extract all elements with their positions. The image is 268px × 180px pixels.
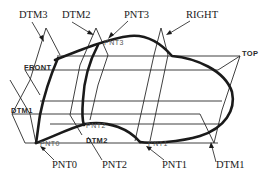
pnt3-tag: PNT3 — [104, 39, 124, 46]
callout-pnt1: PNT1 — [162, 159, 187, 170]
profile-curves — [36, 36, 233, 143]
callout-dtm3: DTM3 — [19, 9, 48, 20]
dtm2-plane — [70, 28, 108, 135]
callout-pnt2: PNT2 — [102, 159, 127, 170]
dtm1-plane — [12, 101, 222, 143]
pnt2-tag: PNT2 — [86, 122, 106, 129]
dtm1-plane-tag: DTM1 — [11, 106, 33, 115]
pnt1-tag: PNT1 — [148, 140, 168, 147]
callout-pnt0: PNT0 — [52, 159, 77, 170]
front-plane-tag: FRONT — [24, 63, 51, 72]
dtm2-arrow-icon — [87, 30, 94, 35]
top-plane-tag: TOP — [242, 49, 258, 58]
front-plane — [25, 70, 218, 95]
right-arrow-icon — [166, 30, 172, 35]
pnt0-tag: PNT0 — [40, 140, 60, 147]
callout-right: RIGHT — [186, 9, 219, 20]
callout-dtm2: DTM2 — [62, 9, 91, 20]
callout-dtm1: DTM1 — [216, 159, 245, 170]
dtm2-plane-tag: DTM2 — [86, 136, 108, 145]
cad-wireframe-diagram: PNT3 PNT2 PNT0 PNT1 TOP FRONT DTM1 DTM2 … — [0, 0, 268, 180]
callout-pnt3: PNT3 — [124, 9, 149, 20]
